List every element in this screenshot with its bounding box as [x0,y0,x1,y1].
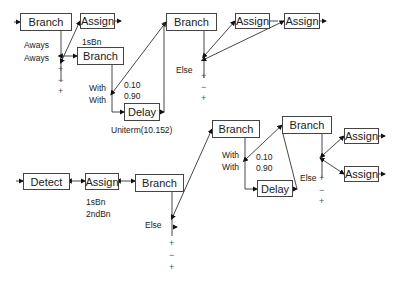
aways-label-2: Aways [24,54,49,63]
delay-node-l[interactable]: Delay [257,180,293,197]
assign-note-u: 1sBn [82,38,101,47]
with-label-l1: With [222,151,239,160]
sign-minus: − [201,83,206,92]
branch-node-u3[interactable]: Branch [166,13,217,31]
sign-plus: + [58,65,63,74]
connector-lines [0,0,401,288]
branch-node-l1[interactable]: Branch [135,174,184,192]
assign-node-u2[interactable]: Assign [235,13,270,29]
with-label-1: With [89,84,106,93]
branch-node-l2[interactable]: Branch [212,120,260,138]
sign-plus: + [201,94,206,103]
assign-node-u3[interactable]: Assign [284,13,320,29]
assign-node-l2[interactable]: Assign [344,128,379,144]
assign-node-u1[interactable]: Assign [80,13,115,29]
assign-note-l2: 2ndBn [86,210,111,219]
assign-node-l1[interactable]: Assign [85,173,119,190]
sign-minus: − [58,76,63,85]
branch-node-u1[interactable]: Branch [20,13,72,31]
sign-plus: + [319,174,324,183]
uniterm-label: Uniterm(10.152) [111,126,172,135]
sign-plus: + [169,239,174,248]
prob-label-l1: 0.10 [256,153,273,162]
branch-node-l3[interactable]: Branch [282,116,332,134]
sign-plus: + [319,197,324,206]
with-label-l2: With [222,163,239,172]
detect-node[interactable]: Detect [23,173,70,190]
delay-node-u[interactable]: Delay [124,103,160,121]
else-label-u: Else [176,66,193,75]
aways-label-1: Aways [24,41,49,50]
sign-minus: − [169,251,174,260]
sign-plus: + [201,72,206,81]
prob-label-2: 0.90 [124,92,141,101]
sign-plus: + [169,263,174,272]
assign-node-l3[interactable]: Assign [344,166,379,182]
branch-node-u2[interactable]: Branch [77,47,124,65]
sign-minus: − [319,186,324,195]
else-label-l1: Else [145,221,162,230]
else-label-l2: Else [300,174,317,183]
assign-note-l1: 1sBn [86,198,105,207]
prob-label-1: 0.10 [124,81,141,90]
prob-label-l2: 0.90 [256,164,273,173]
with-label-2: With [89,96,106,105]
sign-plus: + [58,87,63,96]
